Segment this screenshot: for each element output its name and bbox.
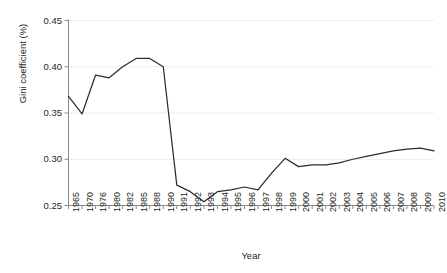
gridlines xyxy=(69,21,435,206)
x-axis-title: Year xyxy=(68,250,434,261)
data-series-line xyxy=(69,58,435,201)
y-axis-ticks xyxy=(65,21,69,206)
x-axis-ticks xyxy=(69,206,435,210)
